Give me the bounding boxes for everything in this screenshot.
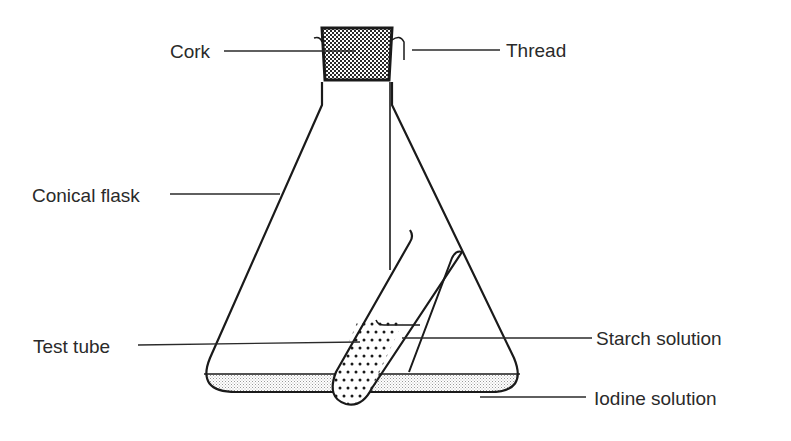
label-thread: Thread	[506, 41, 566, 60]
cork	[314, 28, 392, 80]
glass-support	[409, 252, 462, 372]
starch-solution	[320, 320, 430, 415]
label-conical-flask: Conical flask	[32, 186, 140, 205]
leader-test-tube	[138, 342, 360, 345]
label-starch-solution: Starch solution	[596, 329, 722, 348]
apparatus-diagram	[0, 0, 791, 441]
label-iodine-solution: Iodine solution	[594, 389, 717, 408]
label-cork: Cork	[170, 42, 210, 61]
thread	[392, 37, 404, 60]
label-test-tube: Test tube	[33, 337, 110, 356]
